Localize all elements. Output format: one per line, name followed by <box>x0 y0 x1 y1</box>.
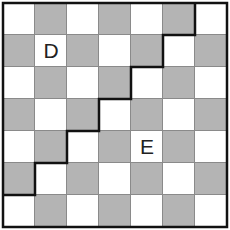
grid-cell <box>131 195 163 227</box>
grid-cell <box>195 195 227 227</box>
grid-cell <box>131 163 163 195</box>
grid-cell <box>3 3 35 35</box>
grid-cell <box>163 163 195 195</box>
grid-cell <box>195 131 227 163</box>
grid-cell <box>3 35 35 67</box>
grid-cell <box>163 131 195 163</box>
grid-cell <box>99 163 131 195</box>
cell-label-e: E <box>131 131 163 163</box>
grid-cell <box>35 99 67 131</box>
grid-cell <box>99 195 131 227</box>
grid-cell <box>163 99 195 131</box>
grid-cell <box>99 67 131 99</box>
grid-cell <box>3 99 35 131</box>
grid-cell <box>35 163 67 195</box>
grid-cell <box>3 195 35 227</box>
grid-cell <box>35 195 67 227</box>
grid-cell <box>3 163 35 195</box>
grid-cell <box>131 99 163 131</box>
grid-cell <box>35 67 67 99</box>
grid-cell <box>195 35 227 67</box>
grid-cell <box>131 3 163 35</box>
grid-cell <box>195 67 227 99</box>
grid-cell <box>3 67 35 99</box>
grid-cell <box>99 3 131 35</box>
grid-cell <box>195 99 227 131</box>
grid-cell <box>195 163 227 195</box>
grid-cell <box>67 131 99 163</box>
grid-cell <box>35 3 67 35</box>
grid-cell <box>67 99 99 131</box>
grid-cell <box>67 195 99 227</box>
grid-cell <box>67 35 99 67</box>
grid-cell <box>195 3 227 35</box>
grid-cell <box>163 3 195 35</box>
grid-cell <box>131 67 163 99</box>
grid-cell <box>67 67 99 99</box>
grid-cell <box>35 131 67 163</box>
grid-cell <box>163 195 195 227</box>
grid-cell <box>99 99 131 131</box>
grid-cell <box>99 131 131 163</box>
grid-cell <box>163 35 195 67</box>
grid-cell <box>3 131 35 163</box>
grid-cell <box>163 67 195 99</box>
grid-cell <box>131 35 163 67</box>
cell-label-d: D <box>35 35 67 67</box>
grid-cell <box>99 35 131 67</box>
grid-cell <box>67 3 99 35</box>
grid-cell <box>67 163 99 195</box>
